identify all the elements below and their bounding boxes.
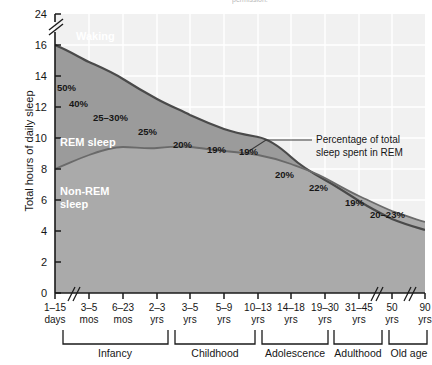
group-label-adolescence: Adolescence	[260, 348, 330, 359]
non-rem-sleep-region-label-line2: sleep	[60, 199, 88, 210]
x-tick-label-11-line2: yrs	[402, 314, 432, 326]
x-tick-label-4-line1: 3–5	[182, 302, 199, 313]
x-tick-label-2-line1: 6–23	[112, 302, 134, 313]
rem-percent-label-6: 19%	[239, 147, 258, 157]
x-tick-label-11: 90 yrs	[402, 302, 432, 325]
group-label-old-age: Old age	[388, 348, 430, 359]
annotation-caption-line2: sleep spent in REM	[316, 147, 403, 160]
x-tick-label-10-line1: 50	[386, 302, 397, 313]
bracket-old-age	[389, 330, 427, 344]
group-label-childhood: Childhood	[175, 348, 255, 359]
rem-percent-label-1: 40%	[69, 99, 88, 109]
rem-percent-label-3: 25%	[138, 127, 157, 137]
rem-percent-label-5: 19%	[207, 145, 226, 155]
rem-sleep-region-label: REM sleep	[60, 137, 116, 148]
rem-percent-label-0: 50%	[57, 83, 76, 93]
x-tick-label-11-line1: 90	[419, 302, 430, 313]
annotation-caption-line1: Percentage of total	[316, 134, 400, 147]
x-tick-label-0-line1: 1–15	[44, 302, 66, 313]
rem-percent-label-2: 25–30%	[93, 113, 128, 123]
x-tick-label-3-line1: 2–3	[149, 302, 166, 313]
rem-percent-label-8: 22%	[309, 183, 328, 193]
bracket-adulthood	[334, 330, 382, 344]
rem-percent-label-7: 20%	[275, 170, 294, 180]
group-label-adulthood: Adulthood	[331, 348, 385, 359]
bracket-adolescence	[262, 330, 328, 344]
x-tick-label-5-line1: 5–9	[216, 302, 233, 313]
x-axis-ticks	[55, 293, 425, 299]
bracket-infancy	[63, 330, 168, 344]
x-tick-label-7-line1: 14–18	[277, 302, 305, 313]
group-label-infancy: Infancy	[65, 348, 165, 359]
rem-percent-label-4: 20%	[173, 140, 192, 150]
x-tick-label-1-line1: 3–5	[81, 302, 98, 313]
waking-region-label: Waking	[76, 31, 115, 42]
group-brackets	[63, 330, 427, 344]
bracket-childhood	[175, 330, 255, 344]
sleep-chart-figure: permission. Total hours of daily sleep 0…	[0, 0, 432, 365]
rem-percent-label-9: 19%	[345, 198, 364, 208]
x-tick-label-8-line1: 19–30	[311, 302, 339, 313]
rem-percent-label-10: 20–23%	[370, 210, 405, 220]
non-rem-sleep-region-label-line1: Non-REM	[60, 186, 110, 197]
